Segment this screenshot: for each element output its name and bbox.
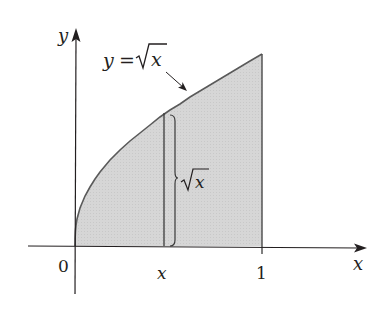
tick-x-label: x — [157, 263, 167, 283]
tick-one-label: 1 — [256, 263, 267, 283]
x-axis-label: x — [353, 253, 363, 274]
strip-height-label: x — [195, 172, 205, 192]
curve-label-eq: = — [119, 49, 135, 71]
area-under-sqrt-diagram: y = x x y x 0 x 1 — [0, 0, 391, 316]
curve-label-pointer — [166, 72, 184, 88]
y-axis-label: y — [57, 25, 69, 46]
curve-label-rhs: x — [151, 48, 162, 70]
curve-label-lhs: y — [102, 49, 114, 71]
y-axis — [75, 36, 76, 294]
shaded-region — [75, 54, 262, 246]
origin-label: 0 — [58, 256, 69, 276]
x-axis — [28, 246, 360, 248]
